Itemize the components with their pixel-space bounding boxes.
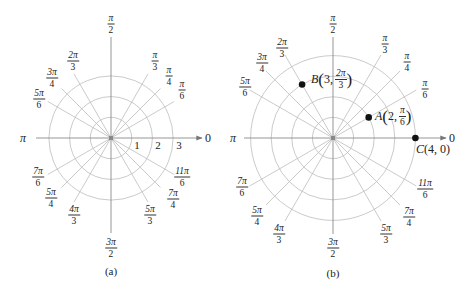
angle-label-7pi-4: 7π4 [403,207,415,228]
angle-label-5pi-3: 5π3 [144,205,156,226]
pole-b [331,136,335,140]
caption-a: (a) [105,265,117,277]
point-c [412,135,419,142]
close-paren: ) [406,108,412,125]
angle-label-5pi-6: 5π6 [33,89,45,110]
close-paren: ) [347,71,353,88]
angle-label-4pi-3: 4π3 [68,205,80,226]
angle-label-5pi-4: 5π4 [45,188,57,209]
point-a-theta: π6 [399,106,406,127]
angle-label-2pi-3: 2π3 [67,51,79,72]
angle-label-pi-2: π2 [108,14,115,35]
angle-label-pi-4: π4 [404,52,411,73]
comma: , [394,109,397,124]
point-b-theta: 2π3 [335,69,347,90]
ring-label-1: 1 [134,139,140,151]
polar-grid-b [244,37,446,234]
angle-label-11pi-6: 11π6 [174,167,190,188]
point-c-label: C(4, 0) [416,142,450,157]
angle-label-pi: π [230,133,236,143]
angle-label-pi-3: π3 [382,34,389,55]
polar-grids [0,0,473,290]
angle-label-pi-2: π2 [330,14,337,35]
angle-label-5pi-3: 5π3 [380,224,392,245]
point-b-label: B ( 3, 2π3 ) [311,69,352,90]
angle-label-7pi-6: 7π6 [236,177,248,198]
angle-label-7pi-6: 7π6 [32,167,44,188]
angle-label-pi-4: π4 [166,66,173,87]
pole-a [109,136,113,140]
angle-label-3pi-2: 3π2 [105,238,117,259]
angle-label-3pi-2: 3π2 [327,238,339,259]
angle-label-7pi-4: 7π4 [167,189,179,210]
angle-label-pi-3: π3 [152,51,159,72]
angle-label-2pi-3: 2π3 [276,38,288,59]
point-a [365,114,372,121]
point-b [299,81,306,88]
ring-label-2: 2 [155,139,161,151]
angle-label-5pi-4: 5π4 [251,206,263,227]
comma: , [330,72,333,87]
angle-label-pi-6: π6 [422,79,429,100]
caption-b: (b) [327,267,340,279]
point-a-label: A ( 2, π6 ) [375,106,411,127]
angle-label-11pi-6: 11π6 [417,179,433,200]
angle-label-3pi-4: 3π4 [46,68,58,89]
angle-label-5pi-6: 5π6 [239,77,251,98]
ring-label-3: 3 [176,139,182,151]
angle-label-zero: 0 [205,133,211,143]
angle-label-pi: π [20,133,26,143]
angle-label-3pi-4: 3π4 [256,53,268,74]
angle-label-pi-6: π6 [179,80,186,101]
angle-label-4pi-3: 4π3 [273,224,285,245]
